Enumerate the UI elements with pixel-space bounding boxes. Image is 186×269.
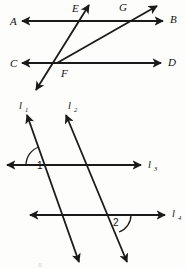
faint-bottom-mark: ll bbox=[38, 261, 42, 269]
svg-text:l: l bbox=[148, 159, 151, 170]
line-l2 bbox=[66, 115, 127, 262]
angle-arc-2 bbox=[119, 215, 131, 232]
top-diagram: A E G B C D F bbox=[9, 1, 177, 90]
point-label-F: F bbox=[60, 67, 68, 79]
point-label-A: A bbox=[9, 15, 17, 27]
line-label-l2: l 2 bbox=[68, 100, 78, 113]
angle-label-2: 2 bbox=[113, 217, 119, 228]
svg-text:3: 3 bbox=[153, 165, 158, 172]
svg-text:l: l bbox=[172, 208, 175, 219]
geometry-figure: A E G B C D F 1 2 l bbox=[0, 0, 186, 269]
line-label-l3: l 3 bbox=[148, 159, 158, 172]
svg-text:2: 2 bbox=[74, 106, 78, 113]
line-l1 bbox=[27, 115, 79, 262]
svg-text:l: l bbox=[68, 100, 71, 111]
svg-text:l: l bbox=[19, 100, 22, 111]
point-label-E: E bbox=[71, 2, 79, 14]
svg-text:1: 1 bbox=[25, 106, 28, 113]
bottom-diagram: 1 2 l 1 l 2 l 3 l 4 ll bbox=[7, 100, 182, 269]
point-label-G: G bbox=[119, 1, 127, 13]
line-label-l4: l 4 bbox=[172, 208, 182, 221]
ray-FG bbox=[57, 6, 157, 63]
svg-text:4: 4 bbox=[178, 214, 182, 221]
point-label-C: C bbox=[10, 57, 18, 69]
geometry-canvas: A E G B C D F 1 2 l bbox=[0, 0, 186, 269]
angle-label-1: 1 bbox=[37, 160, 43, 171]
line-label-l1: l 1 bbox=[19, 100, 28, 113]
point-label-B: B bbox=[170, 13, 177, 25]
point-label-D: D bbox=[167, 56, 176, 68]
